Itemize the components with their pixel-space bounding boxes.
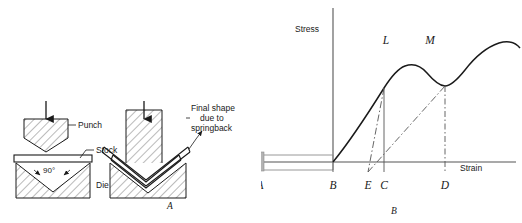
figure-root: 90° Punch Stock Die xyxy=(0,0,522,223)
springback-leader xyxy=(189,131,202,149)
x-axis-label: Strain xyxy=(460,163,482,173)
springback-label-line3: springback xyxy=(191,123,233,133)
springback-label-line1: Final shape xyxy=(191,103,235,113)
point-label-M: M xyxy=(424,34,436,46)
panel-b-chart: Stress Strain L M A B E C D B xyxy=(261,0,522,223)
bend-setup-after: Final shape due to springback xyxy=(102,101,235,198)
punch-label: Punch xyxy=(78,120,102,130)
point-label-E: E xyxy=(363,179,371,191)
point-label-C: C xyxy=(380,179,388,191)
bend-setup-before: 90° Punch Stock Die xyxy=(14,101,118,198)
point-label-B: B xyxy=(329,179,336,191)
point-label-L: L xyxy=(382,34,389,46)
stress-strain-curve xyxy=(333,42,520,162)
springback-label-line2: due to xyxy=(200,113,224,123)
panel-b-caption: B xyxy=(391,206,397,216)
point-label-A: A xyxy=(261,179,264,191)
point-label-D: D xyxy=(440,179,450,191)
die-label: Die xyxy=(96,180,109,190)
reload-line-E-to-M xyxy=(368,86,445,172)
panel-a-caption: A xyxy=(166,201,173,211)
stock-sheet xyxy=(14,155,92,162)
stock-block-marker-a xyxy=(261,152,264,171)
angle-label: 90° xyxy=(43,166,55,175)
punch-shape xyxy=(24,119,68,152)
panel-a-drawing: 90° Punch Stock Die xyxy=(0,0,261,223)
y-axis-label: Stress xyxy=(295,24,319,34)
